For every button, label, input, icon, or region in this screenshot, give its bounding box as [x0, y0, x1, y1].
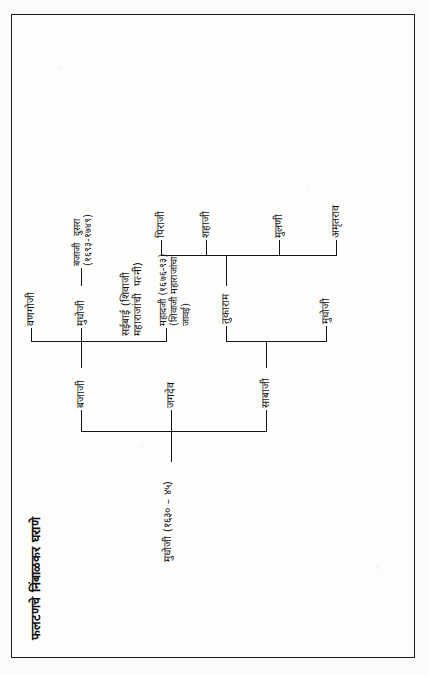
- node-sabaji: साबाजी: [259, 378, 271, 408]
- genealogy-chart-canvas: फलटणचे निंबाळकर घराणे मुधोजी (१६३० – ४५)…: [11, 14, 415, 658]
- node-mudhoji-2: मुधोजी: [319, 298, 331, 324]
- edge-to-amrutrao: [336, 240, 337, 256]
- edge-tukaram-stem: [226, 256, 227, 286]
- edge-to-mahadji: [166, 328, 167, 342]
- edge-to-jagdev: [171, 410, 172, 432]
- edge-gen1-spine: [81, 431, 266, 432]
- edge-sabaji-spine: [226, 341, 326, 342]
- edge-to-tukaram: [226, 326, 227, 342]
- edge-to-bajaji-dusra: [81, 268, 82, 286]
- edge-bajaji-stem: [81, 342, 82, 368]
- edge-bajaji-spine: [31, 341, 166, 342]
- rotated-chart-wrapper: फलटणचे निंबाळकर घराणे मुधोजी (१६३० – ४५)…: [11, 14, 415, 658]
- page-background: फलटणचे निंबाळकर घराणे मुधोजी (१६३० – ४५)…: [0, 0, 429, 675]
- node-mahadji: महादजी (१६७६-९३) (शिवाजी महाराजांचा जावई…: [157, 254, 191, 326]
- edge-to-mulani: [279, 240, 280, 256]
- node-shahaji: शहाजी: [199, 211, 211, 238]
- node-mudhoji-3: मुधोजी: [74, 300, 86, 326]
- edge-sabaji-stem: [266, 342, 267, 368]
- node-tukaram: तुकाराम: [219, 294, 231, 324]
- node-piraji: पिराजी: [154, 211, 166, 238]
- edge-to-bajaji: [81, 410, 82, 432]
- edge-to-vanagoji: [31, 328, 32, 342]
- node-mudhoji-1: मुधोजी (१६३० – ४५): [161, 481, 173, 562]
- node-bajaji-dusra: बजाजी दुसरा (१६९३-१७४९): [71, 214, 94, 266]
- node-mulani: मुलणी: [272, 214, 284, 238]
- edge-to-sabaji: [266, 410, 267, 432]
- edge-tukaram-spine: [161, 255, 336, 256]
- page-title: फलटणचे निंबाळकर घराणे: [27, 517, 44, 640]
- node-vanagoji: वणगोजी: [24, 292, 36, 326]
- node-bajaji: बजाजी: [74, 380, 86, 408]
- edge-to-piraji: [161, 240, 162, 256]
- node-saibai: सईबाई (शिवाजी महाराजांची पत्नी): [119, 262, 144, 336]
- edge-to-mudhoji-3: [81, 328, 82, 342]
- edge-to-mudhoji-2: [326, 326, 327, 342]
- edge-root-stem: [171, 432, 172, 462]
- node-amrutrao: अमृतराव: [329, 205, 341, 239]
- node-jagdev: जगदेव: [164, 382, 176, 408]
- edge-to-shahaji: [206, 240, 207, 256]
